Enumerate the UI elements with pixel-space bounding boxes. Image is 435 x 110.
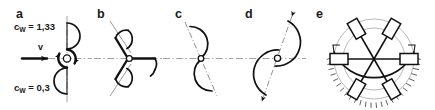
panel-d-hub	[274, 55, 280, 61]
panel-e: e	[316, 7, 421, 108]
panel-b-cup-upper-left-b	[127, 30, 132, 48]
upper-half-shell	[67, 23, 80, 49]
panel-e-blade-2	[347, 18, 366, 39]
panel-b-hub	[126, 56, 132, 62]
panel-e-blade-5	[382, 79, 401, 100]
panel-e-blade-6	[347, 79, 366, 100]
svg-text:cW = 1,33: cW = 1,33	[14, 21, 55, 33]
panel-b-cup-right-lower	[151, 70, 156, 77]
panel-e-blade-3	[382, 18, 401, 39]
panel-a-letter: a	[16, 7, 24, 21]
figure-svg: a cW = 1,33 cW = 0,3 v	[0, 0, 435, 110]
velocity-label: v	[38, 42, 43, 52]
cw-top-value: = 1,33	[26, 21, 55, 32]
lower-half-shell	[54, 68, 67, 94]
panel-b-arm-lower-left	[116, 59, 129, 80]
panel-a: a cW = 1,33 cW = 0,3 v	[14, 7, 92, 103]
panel-b-cup-upper-left	[116, 30, 129, 38]
panel-e-blade-1	[330, 54, 348, 65]
panel-b-letter: b	[97, 7, 105, 21]
panel-a-cw-bottom-label: cW = 0,3	[14, 82, 50, 94]
panel-e-spokes	[340, 30, 408, 89]
cw-bottom-value: = 0,3	[26, 82, 50, 93]
panel-c: c	[163, 7, 233, 96]
panel-c-upper-shell	[190, 26, 208, 57]
panel-a-cw-top-label: cW = 1,33	[14, 21, 55, 33]
panel-b-cup-lower-left-b	[127, 68, 132, 86]
panel-b-cup-lower-left	[116, 79, 129, 87]
panel-c-letter: c	[175, 7, 182, 21]
panel-a-hub	[63, 55, 70, 62]
panel-d-letter: d	[245, 7, 253, 21]
panel-e-letter: e	[316, 7, 323, 21]
panel-b-cup-right-upper	[155, 59, 156, 70]
panel-b-arm-upper-left	[116, 38, 129, 59]
panel-b: b	[94, 7, 162, 96]
panel-d: d	[236, 7, 306, 101]
svg-text:cW = 0,3: cW = 0,3	[14, 82, 50, 94]
panel-e-blade-4	[400, 54, 418, 65]
panel-c-hub	[198, 56, 204, 62]
figure-container: a cW = 1,33 cW = 0,3 v	[0, 0, 435, 110]
panel-c-upper-shell-chord-dummy	[190, 27, 202, 58]
